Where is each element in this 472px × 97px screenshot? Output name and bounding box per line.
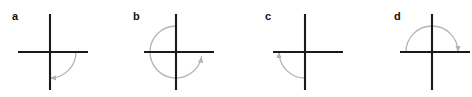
panel-d: d xyxy=(354,0,472,97)
figure-root: abcd xyxy=(0,0,472,97)
panel-d-graphic xyxy=(0,0,472,97)
panel-d-label: d xyxy=(394,11,401,22)
